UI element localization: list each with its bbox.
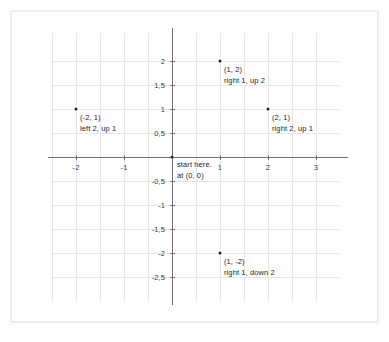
y-axis-tick-label: 1	[132, 105, 165, 114]
y-axis-tick	[170, 229, 175, 230]
grid-line-vertical	[148, 33, 149, 300]
data-point-point-neg2-1	[75, 108, 78, 111]
annotation-point-1-2: (1, 2)right 1, up 2	[224, 65, 265, 86]
annotation-direction-label: right 1, up 2	[224, 76, 265, 87]
y-axis-tick	[170, 277, 175, 278]
y-axis-tick-label: 2	[132, 57, 165, 66]
x-axis-tick	[220, 155, 221, 160]
grid-line-horizontal	[52, 181, 340, 182]
y-axis-tick-label: -1,5	[132, 225, 165, 234]
y-axis-tick	[170, 133, 175, 134]
data-point-point-1-neg2	[219, 252, 222, 255]
origin-annotation-line1: start here.	[177, 160, 212, 171]
annotation-coord-label: (-2, 1)	[80, 113, 116, 124]
grid-line-horizontal	[52, 229, 340, 230]
x-axis-tick-label: -2	[73, 163, 80, 172]
y-axis-tick	[170, 253, 175, 254]
origin-annotation: start here.at (0, 0)	[177, 160, 212, 181]
x-axis-tick	[124, 155, 125, 160]
origin-annotation-line2: at (0, 0)	[177, 171, 212, 182]
x-axis-tick-label: 2	[266, 163, 270, 172]
annotation-coord-label: (1, -2)	[224, 257, 275, 268]
annotation-direction-label: left 2, up 1	[80, 124, 116, 135]
data-point-point-1-2	[219, 60, 222, 63]
figure-canvas: -2-112321,510,5-0,5-1-1,5-2-2,5start her…	[0, 0, 389, 342]
grid-line-horizontal	[52, 205, 340, 206]
y-axis-tick	[170, 205, 175, 206]
y-axis-tick-label: 1,5	[132, 81, 165, 90]
x-axis-tick-label: 1	[218, 163, 222, 172]
x-axis-tick	[76, 155, 77, 160]
coordinate-plane-plot: -2-112321,510,5-0,5-1-1,5-2-2,5start her…	[0, 0, 389, 342]
x-axis-tick	[316, 155, 317, 160]
y-axis	[172, 28, 173, 305]
y-axis-tick-label: 0,5	[132, 129, 165, 138]
y-axis-tick-label: -2,5	[132, 273, 165, 282]
grid-line-vertical	[292, 33, 293, 300]
origin-point-dot	[171, 156, 174, 159]
data-point-point-2-1	[267, 108, 270, 111]
x-axis-tick-label: -1	[121, 163, 128, 172]
annotation-point-neg2-1: (-2, 1)left 2, up 1	[80, 113, 116, 134]
grid-line-horizontal	[52, 277, 340, 278]
grid-line-horizontal	[52, 253, 340, 254]
grid-line-horizontal	[52, 61, 340, 62]
annotation-direction-label: right 2, up 1	[272, 124, 313, 135]
x-axis	[48, 157, 348, 158]
annotation-direction-label: right 1, down 2	[224, 268, 275, 279]
x-axis-tick	[268, 155, 269, 160]
grid-line-vertical	[100, 33, 101, 300]
annotation-coord-label: (2, 1)	[272, 113, 313, 124]
x-axis-tick-label: 3	[314, 163, 318, 172]
y-axis-tick	[170, 61, 175, 62]
annotation-point-2-1: (2, 1)right 2, up 1	[272, 113, 313, 134]
annotation-coord-label: (1, 2)	[224, 65, 265, 76]
y-axis-tick	[170, 181, 175, 182]
grid-line-horizontal	[52, 85, 340, 86]
y-axis-tick-label: -1	[132, 201, 165, 210]
y-axis-tick-label: -0,5	[132, 177, 165, 186]
annotation-point-1-neg2: (1, -2)right 1, down 2	[224, 257, 275, 278]
y-axis-tick	[170, 85, 175, 86]
y-axis-tick	[170, 109, 175, 110]
grid-line-vertical	[52, 33, 53, 300]
y-axis-tick-label: -2	[132, 249, 165, 258]
grid-line-horizontal	[52, 109, 340, 110]
